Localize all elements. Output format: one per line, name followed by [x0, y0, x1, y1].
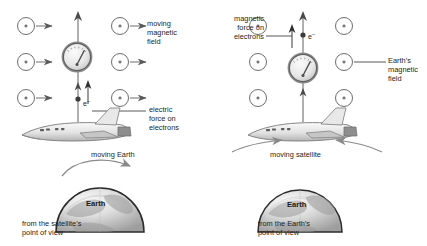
electron-dot	[300, 32, 305, 37]
field-vector	[112, 18, 147, 35]
magnetic-force-label: magnetic force on electrons	[214, 14, 264, 41]
shuttle-engines	[118, 127, 131, 136]
space-shuttle-illustration	[22, 108, 131, 141]
field-vector	[112, 90, 147, 107]
field-dot-symbol	[250, 90, 267, 107]
earth-globe-label: Earth	[287, 200, 306, 209]
shuttle-tail-fin	[321, 108, 346, 125]
galvanometer-icon	[62, 42, 93, 73]
field-dot-symbol	[336, 90, 353, 107]
electric-force-label: electric force on electrons	[149, 105, 179, 132]
diagram-panel-earth-frame: magnetic force on electrons Earth’s magn…	[214, 0, 427, 246]
moving-magnetic-field-label: moving magnetic field	[147, 19, 177, 46]
electron-label: e–	[308, 31, 315, 40]
moving-satellite-label: moving satellite	[270, 150, 321, 159]
shuttle-tail-fin	[95, 108, 120, 125]
shuttle-engines	[344, 127, 357, 136]
field-vector	[18, 54, 53, 71]
left-panel-vector-art	[0, 0, 213, 246]
field-dot-symbol	[250, 54, 267, 71]
satellite-frame-caption: from the satellite’s point of view	[22, 219, 81, 237]
field-dot-symbol	[336, 54, 353, 71]
electron-label: e–	[83, 98, 90, 107]
galvanometer-icon	[288, 53, 319, 84]
moving-earth-label: moving Earth	[91, 150, 135, 159]
electron-dot	[75, 96, 80, 101]
earth-frame-caption: from the Earth’s point of view	[258, 219, 310, 237]
earth-globe-label: Earth	[86, 199, 105, 208]
field-vector	[112, 54, 147, 71]
field-vector	[18, 18, 53, 35]
earth-magnetic-field-label: Earth’s magnetic field	[388, 56, 418, 83]
earth-rotation-arrow	[62, 160, 130, 176]
diagram-panel-satellite-frame: moving magnetic field electric force on …	[0, 0, 213, 246]
field-vector	[18, 90, 53, 107]
field-dot-symbol	[336, 18, 353, 35]
